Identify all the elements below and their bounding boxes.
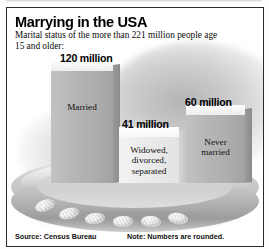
top-cut-rule — [6, 0, 262, 3]
bar-married: Married — [51, 71, 113, 183]
bar-side-face — [179, 130, 186, 183]
value-label-widowed: 41 million — [122, 118, 169, 130]
value-label-married: 120 million — [60, 52, 113, 64]
bar-category-label: Never married — [186, 137, 245, 158]
bar-front-face — [51, 71, 113, 183]
infographic-root: Marrying in the USA Marital status of th… — [0, 0, 269, 249]
page-title: Marrying in the USA — [15, 13, 147, 31]
bar-category-label: Married — [51, 102, 113, 112]
source-text: Source: Census Bureau — [15, 232, 96, 241]
bar-widowed-divorced-separated: Widowed, divorced, separated — [119, 137, 179, 183]
bar-side-face — [245, 108, 252, 183]
value-label-never-married: 60 million — [185, 96, 232, 108]
bar-never-married: Never married — [186, 115, 245, 183]
infographic-frame: Marrying in the USA Marital status of th… — [6, 7, 264, 247]
bar-category-label: Widowed, divorced, separated — [119, 145, 179, 176]
subtitle: Marital status of the more than 221 mill… — [15, 30, 227, 51]
note-text: Note: Numbers are rounded. — [127, 232, 224, 241]
ring-shadow — [25, 210, 245, 232]
